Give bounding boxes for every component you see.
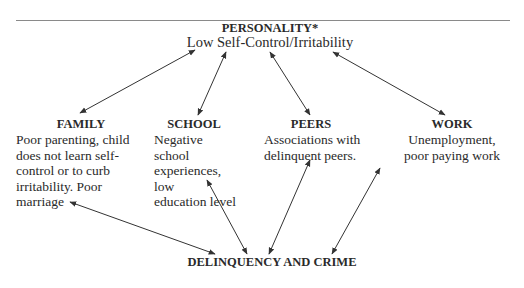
arrow-family-delinquency (70, 202, 215, 254)
arrows-layer (0, 0, 524, 288)
arrow-personality-family (80, 50, 195, 113)
arrow-personality-peers (270, 52, 310, 115)
arrow-personality-school (198, 52, 226, 115)
arrow-peers-delinquency (269, 160, 310, 254)
arrow-school-delinquency (207, 180, 247, 254)
arrow-work-delinquency (332, 168, 380, 254)
arrow-personality-work (333, 52, 445, 115)
